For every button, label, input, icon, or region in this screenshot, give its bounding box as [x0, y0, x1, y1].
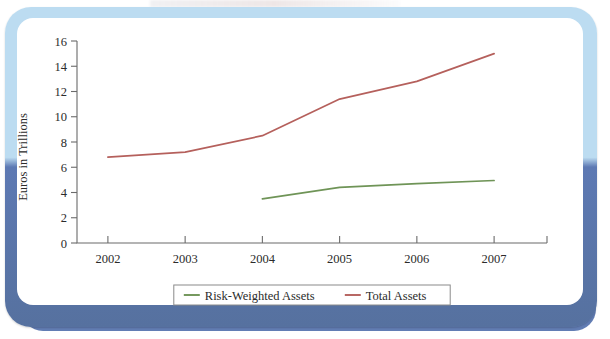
series-line-risk-weighted-assets: [262, 181, 494, 199]
y-tick-label: 10: [55, 110, 68, 124]
x-tick-label: 2004: [250, 252, 276, 266]
y-tick-label: 16: [55, 35, 68, 49]
chart-svg: 0246810121416 200220032004200520062007 E…: [5, 7, 597, 327]
y-axis-title: Euros in Trillions: [16, 113, 30, 201]
series-line-total-assets: [108, 54, 494, 158]
axis-spines: [77, 41, 547, 243]
x-tick-label: 2007: [482, 252, 507, 266]
x-tick-label: 2005: [327, 252, 352, 266]
chart-legend: Risk-Weighted AssetsTotal Assets: [174, 285, 450, 305]
x-axis-ticks: 200220032004200520062007: [95, 236, 547, 266]
x-tick-label: 2002: [95, 252, 120, 266]
legend-label: Risk-Weighted Assets: [205, 289, 315, 303]
data-series: [108, 54, 494, 199]
x-tick-label: 2006: [404, 252, 429, 266]
x-tick-label: 2003: [173, 252, 198, 266]
y-tick-label: 4: [61, 186, 68, 200]
line-chart: 0246810121416 200220032004200520062007 E…: [5, 7, 597, 327]
y-tick-label: 8: [61, 136, 67, 150]
scan-artifact: [150, 0, 400, 7]
y-axis-ticks: 0246810121416: [55, 35, 78, 251]
y-tick-label: 6: [61, 161, 67, 175]
y-tick-label: 2: [61, 211, 67, 225]
y-tick-label: 12: [55, 85, 68, 99]
axes: [77, 41, 547, 243]
legend-label: Total Assets: [366, 289, 427, 303]
scan-page: 0246810121416 200220032004200520062007 E…: [0, 0, 610, 339]
y-tick-label: 14: [55, 60, 68, 74]
y-tick-label: 0: [61, 237, 67, 251]
figure-frame: 0246810121416 200220032004200520062007 E…: [5, 7, 597, 327]
